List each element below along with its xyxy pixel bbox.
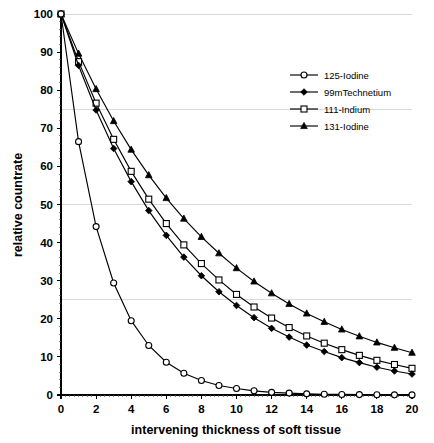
data-point-marker	[339, 347, 345, 353]
data-point-marker	[234, 386, 240, 392]
data-point-marker	[198, 378, 204, 384]
data-point-marker	[286, 300, 293, 306]
x-axis-tick-label: 6	[163, 403, 169, 415]
legend-item-label: 125-Iodine	[324, 70, 369, 81]
data-point-marker	[391, 368, 398, 375]
data-point-marker	[374, 364, 381, 371]
data-point-marker	[163, 221, 169, 227]
data-point-marker	[58, 11, 64, 17]
data-point-marker	[339, 354, 346, 361]
data-point-marker	[128, 318, 134, 324]
x-axis-title: intervening thickness of soft tissue	[131, 423, 341, 437]
y-axis-tick-label: 20	[40, 313, 53, 325]
legend-item-111-indium[interactable]: 111-Indium	[290, 104, 370, 115]
data-point-marker	[356, 392, 362, 398]
data-point-marker	[356, 352, 362, 358]
data-point-marker	[374, 392, 380, 398]
data-point-marker	[110, 117, 117, 123]
data-point-marker	[339, 391, 345, 397]
x-axis-tick-label: 14	[300, 403, 313, 415]
data-point-marker	[111, 280, 117, 286]
data-point-marker	[251, 388, 257, 394]
data-point-marker	[251, 304, 257, 310]
y-axis-tick-label: 40	[40, 237, 53, 249]
data-point-marker	[181, 242, 187, 248]
data-point-marker	[128, 168, 134, 174]
series-99mtechnetium	[58, 11, 416, 378]
data-point-marker	[304, 391, 310, 397]
data-point-marker	[321, 391, 327, 397]
data-point-marker	[216, 382, 222, 388]
data-point-marker	[269, 389, 275, 395]
data-point-marker	[268, 325, 275, 332]
data-point-marker	[163, 359, 169, 365]
y-axis-tick-label: 80	[40, 84, 53, 96]
series-111-indium	[58, 11, 415, 371]
data-point-marker	[110, 145, 117, 152]
x-axis-tick-label: 0	[58, 403, 64, 415]
y-axis-tick-label: 0	[47, 389, 53, 401]
legend-item-label: 111-Indium	[324, 104, 370, 115]
data-point-marker	[198, 261, 204, 267]
line-chart-svg: 0102030405060708090100 02468101214161820…	[0, 0, 434, 443]
data-point-marker	[269, 315, 275, 321]
x-axis-tick-label: 8	[198, 403, 205, 415]
data-point-marker	[234, 291, 240, 297]
data-point-marker	[391, 392, 397, 398]
data-point-marker	[286, 390, 292, 396]
data-point-marker	[356, 359, 363, 366]
series-line	[61, 14, 412, 374]
y-axis-tick-label: 30	[40, 275, 53, 287]
legend-item-label: 99mTechnetium	[324, 87, 391, 98]
x-axis-tick-label: 12	[265, 403, 278, 415]
y-axis-title: relative countrate	[11, 153, 25, 257]
chart-legend: 125-Iodine99mTechnetium111-Indium131-Iod…	[290, 70, 391, 132]
data-point-marker	[128, 178, 135, 185]
data-point-marker	[303, 310, 310, 316]
y-axis-tick-label: 90	[40, 46, 53, 58]
y-axis-tick-label: 70	[40, 122, 53, 134]
data-point-marker	[146, 342, 152, 348]
x-axis-tick-labels-group: 02468101214161820	[58, 403, 419, 415]
data-point-marker	[128, 146, 135, 152]
gridlines-group	[61, 14, 412, 300]
data-point-marker	[301, 89, 308, 96]
data-point-marker	[146, 196, 152, 202]
data-point-marker	[286, 334, 293, 341]
series-line	[61, 14, 412, 368]
chart-figure: 0102030405060708090100 02468101214161820…	[0, 0, 434, 443]
legend-item-99mtechnetium[interactable]: 99mTechnetium	[290, 87, 391, 98]
data-point-marker	[181, 370, 187, 376]
data-point-marker	[301, 72, 307, 78]
data-point-marker	[111, 136, 117, 142]
legend-item-125-iodine[interactable]: 125-Iodine	[290, 70, 369, 81]
data-point-marker	[93, 85, 100, 91]
y-axis-tick-labels-group: 0102030405060708090100	[34, 8, 53, 401]
legend-item-131-iodine[interactable]: 131-Iodine	[290, 121, 369, 132]
y-axis-tick-label: 60	[40, 160, 53, 172]
y-axis-tick-label: 100	[34, 8, 53, 20]
data-point-marker	[304, 333, 310, 339]
data-point-marker	[76, 139, 82, 145]
data-point-marker	[303, 342, 310, 349]
data-point-marker	[321, 348, 328, 355]
data-point-marker	[216, 277, 222, 283]
data-point-marker	[251, 278, 258, 284]
data-point-marker	[286, 325, 292, 331]
data-point-marker	[93, 224, 99, 230]
y-axis-tick-label: 50	[40, 199, 53, 211]
y-axis-ticks-group	[57, 14, 61, 395]
x-axis-tick-label: 2	[93, 403, 99, 415]
data-point-marker	[301, 106, 307, 112]
x-axis-tick-label: 16	[335, 403, 348, 415]
data-point-marker	[251, 314, 258, 321]
data-point-marker	[268, 290, 275, 296]
x-axis-tick-label: 10	[230, 403, 243, 415]
x-axis-tick-label: 18	[371, 403, 384, 415]
data-point-marker	[409, 392, 415, 398]
data-point-marker	[321, 340, 327, 346]
y-axis-tick-label: 10	[40, 351, 53, 363]
x-axis-tick-label: 20	[406, 403, 419, 415]
data-point-marker	[391, 362, 397, 368]
legend-item-label: 131-Iodine	[324, 121, 369, 132]
